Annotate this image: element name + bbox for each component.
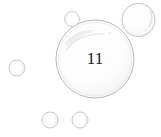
top-right-bubble[interactable]: [122, 4, 155, 37]
bubble-scene: 11: [0, 0, 161, 137]
bottom-left-bubble[interactable]: [42, 112, 58, 128]
bubble-graphic: [0, 0, 161, 137]
top-small-bubble[interactable]: [65, 12, 80, 27]
top-right-bubble-dot: [145, 29, 147, 31]
main-bubble-lower-dot: [85, 85, 87, 87]
bottom-right-bubble[interactable]: [72, 112, 88, 128]
top-right-bubble-ring: [122, 4, 155, 37]
main-bubble-sparkle-dot: [109, 32, 111, 34]
bubble-count-label: 11: [0, 50, 161, 67]
